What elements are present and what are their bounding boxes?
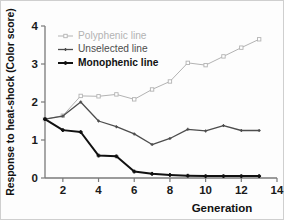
data-point-marker (115, 93, 118, 96)
y-tick-label: 0 (32, 172, 38, 184)
y-tick-label: 2 (32, 96, 38, 108)
data-point-marker (97, 95, 100, 98)
y-tick-label: 1 (32, 134, 39, 146)
x-tick-label: 8 (167, 184, 174, 196)
data-point-marker (150, 88, 153, 91)
y-axis-title: Response to heat-shock (Color score) (5, 8, 16, 196)
line-chart: 01234 2468101214 Generation Response to … (1, 1, 284, 220)
legend-label: Polyphenic line (78, 30, 147, 41)
y-tick-label: 3 (32, 58, 38, 70)
data-point-marker (240, 46, 243, 49)
x-tick-label: 4 (95, 184, 102, 196)
x-tick-group: 2468101214 (60, 178, 284, 196)
data-point-marker (168, 80, 171, 83)
y-tick-group: 01234 (32, 20, 45, 184)
legend-label: Monophenic line (78, 57, 159, 68)
chart-legend: Polyphenic lineUnselected lineMonophenic… (58, 30, 159, 68)
figure-container: 01234 2468101214 Generation Response to … (0, 0, 284, 220)
x-tick-label: 12 (235, 184, 248, 196)
legend-label: Unselected line (78, 43, 148, 54)
series-line (45, 119, 259, 176)
x-tick-label: 2 (60, 184, 66, 196)
data-point-marker (257, 38, 260, 41)
y-tick-label: 4 (32, 20, 39, 32)
x-tick-label: 10 (199, 184, 212, 196)
data-point-marker (133, 98, 136, 101)
legend-marker (64, 34, 67, 37)
data-point-marker (186, 61, 189, 64)
series-polyphenic-line (43, 38, 261, 121)
data-point-marker (204, 63, 207, 66)
legend-entry: Unselected line (58, 43, 148, 54)
series-line (45, 102, 259, 145)
x-tick-label: 14 (271, 184, 284, 196)
series-unselected-line (44, 101, 261, 147)
data-point-marker (79, 94, 82, 97)
data-point-marker (222, 55, 225, 58)
x-tick-label: 6 (131, 184, 137, 196)
legend-entry: Monophenic line (58, 57, 159, 68)
x-axis-title: Generation (192, 202, 253, 214)
legend-entry: Polyphenic line (58, 30, 147, 41)
